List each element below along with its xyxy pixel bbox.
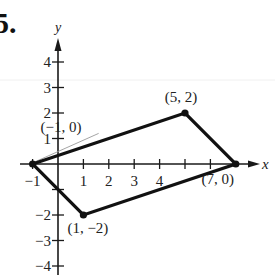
y-axis-arrow-icon: [55, 38, 62, 51]
vertex-label: (−1, 0): [41, 119, 82, 136]
axes: xy−112344321−2−3−4: [0, 20, 275, 275]
x-axis-arrow-icon: [248, 161, 260, 168]
x-tick-label: 2: [105, 173, 113, 189]
vertex-labels: (−1, 0)(5, 2)(7, 0)(1, −2): [41, 89, 234, 237]
x-axis-label: x: [261, 156, 269, 172]
vertex-label: (7, 0): [202, 171, 235, 188]
problem-number: 5.: [0, 6, 17, 40]
y-tick-label: 3: [44, 80, 52, 96]
x-tick-label: 4: [156, 173, 164, 189]
x-tick-label: 1: [80, 173, 88, 189]
vertex-dot: [29, 160, 36, 167]
vertex-dot: [80, 211, 87, 218]
vertex-dot: [232, 160, 239, 167]
figure: 5. xy−112344321−2−3−4 (−1, 0)(5, 2)(7, 0…: [0, 0, 275, 275]
vertex-label: (1, −2): [67, 220, 108, 237]
y-tick-label: −4: [35, 258, 51, 274]
coordinate-plot: xy−112344321−2−3−4 (−1, 0)(5, 2)(7, 0)(1…: [0, 0, 275, 275]
y-axis-label: y: [53, 20, 62, 35]
y-tick-label: 4: [44, 54, 52, 70]
vertex-dot: [181, 109, 188, 116]
y-tick-label: −2: [35, 207, 51, 223]
y-tick-label: −3: [35, 233, 51, 249]
x-tick-label: 3: [130, 173, 138, 189]
vertex-label: (5, 2): [165, 89, 198, 106]
x-tick-label: −1: [25, 173, 41, 189]
